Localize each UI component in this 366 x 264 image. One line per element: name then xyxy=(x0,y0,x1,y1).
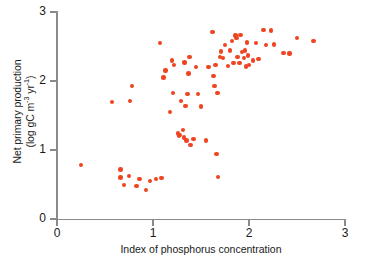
plot-area xyxy=(57,12,345,219)
data-point xyxy=(194,65,198,69)
y-axis-exponent-volume: -3 xyxy=(22,96,31,102)
y-axis-tick-label: 3 xyxy=(24,4,46,18)
data-point xyxy=(210,30,214,34)
data-point xyxy=(118,167,122,171)
data-point xyxy=(199,104,203,108)
data-point xyxy=(172,63,176,67)
data-point xyxy=(215,91,219,95)
data-point xyxy=(226,64,230,68)
data-point xyxy=(171,91,175,95)
data-point xyxy=(245,40,249,44)
data-point xyxy=(272,42,276,46)
data-point xyxy=(204,138,208,142)
data-point xyxy=(134,184,138,188)
data-point xyxy=(183,104,187,108)
data-point xyxy=(269,28,273,32)
data-point xyxy=(235,55,239,59)
y-axis-tick xyxy=(50,218,56,220)
data-point xyxy=(128,99,132,103)
x-axis-tick-label: 1 xyxy=(142,226,164,240)
data-point xyxy=(214,152,218,156)
data-point xyxy=(230,39,234,43)
y-axis-tick-label: 1 xyxy=(24,142,46,156)
data-point xyxy=(295,36,299,40)
data-point xyxy=(110,100,114,104)
data-point xyxy=(191,137,195,141)
x-axis-title: Index of phosphorus concentration xyxy=(46,243,356,255)
data-point xyxy=(281,51,285,55)
data-point xyxy=(159,176,163,180)
data-point xyxy=(246,53,250,57)
data-point xyxy=(184,138,188,142)
y-axis-title-container: Net primary production (log gC m-3 yr-1) xyxy=(0,0,46,222)
data-point xyxy=(221,56,225,60)
data-point xyxy=(130,84,134,88)
data-point xyxy=(287,51,291,55)
data-point xyxy=(213,63,217,67)
data-point xyxy=(231,61,235,65)
data-point xyxy=(127,174,131,178)
x-axis-tick-label: 2 xyxy=(238,226,260,240)
y-axis-tick xyxy=(50,80,56,82)
data-point xyxy=(181,128,185,132)
data-point xyxy=(168,110,172,114)
y-axis-title-line1: Net primary production xyxy=(11,59,23,163)
data-point xyxy=(228,48,232,52)
data-point xyxy=(223,43,227,47)
data-point xyxy=(311,39,315,43)
data-point xyxy=(137,177,141,181)
data-point xyxy=(243,48,247,52)
data-point xyxy=(185,92,189,96)
data-point xyxy=(161,75,165,79)
data-point xyxy=(219,49,223,53)
data-point xyxy=(188,143,192,147)
data-point xyxy=(196,92,200,96)
data-point xyxy=(264,43,268,47)
data-point xyxy=(206,65,210,69)
data-point xyxy=(251,58,255,62)
data-point xyxy=(187,55,191,59)
data-point xyxy=(247,63,251,67)
data-point xyxy=(144,188,148,192)
y-axis-tick-label: 2 xyxy=(24,73,46,87)
data-point xyxy=(118,175,122,179)
data-point xyxy=(261,28,265,32)
data-point xyxy=(186,71,190,75)
y-axis-tick xyxy=(50,11,56,13)
data-point xyxy=(182,60,186,64)
data-point xyxy=(163,68,167,72)
data-point xyxy=(237,61,241,65)
y-axis-tick-label: 0 xyxy=(24,211,46,225)
x-axis-tick-label: 3 xyxy=(334,226,356,240)
scatter-plot-figure: Net primary production (log gC m-3 yr-1)… xyxy=(0,0,366,264)
data-point xyxy=(122,183,126,187)
data-point xyxy=(211,74,215,78)
data-point xyxy=(212,84,216,88)
data-point xyxy=(238,33,242,37)
x-axis-tick-label: 0 xyxy=(46,226,68,240)
data-point xyxy=(154,177,158,181)
data-point xyxy=(79,163,83,167)
data-point xyxy=(148,179,152,183)
y-axis-tick xyxy=(50,149,56,151)
data-point xyxy=(256,57,260,61)
data-point xyxy=(216,175,220,179)
data-point xyxy=(254,41,258,45)
data-point xyxy=(170,58,174,62)
data-point xyxy=(179,99,183,103)
data-point xyxy=(158,41,162,45)
